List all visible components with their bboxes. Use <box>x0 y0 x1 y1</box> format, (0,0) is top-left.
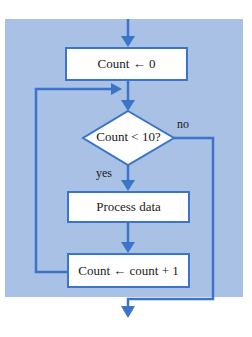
process-data-box: Process data <box>67 191 190 223</box>
arrowhead-icon <box>121 306 135 318</box>
init-process-box: Count ← 0 <box>65 47 188 81</box>
process-label: Process data <box>96 199 161 215</box>
decision-label: Count < 10? <box>83 129 174 145</box>
no-label: no <box>177 117 189 132</box>
yes-label: yes <box>96 166 112 181</box>
arrowhead-icon <box>111 83 122 95</box>
arrowhead-icon <box>121 242 135 253</box>
increment-box: Count ← count + 1 <box>67 253 190 288</box>
init-label: Count ← 0 <box>98 56 156 72</box>
arrowhead-icon <box>121 180 135 191</box>
arrowhead-icon <box>121 36 135 47</box>
arrowhead-icon <box>121 100 135 111</box>
increment-label: Count ← count + 1 <box>78 263 179 279</box>
